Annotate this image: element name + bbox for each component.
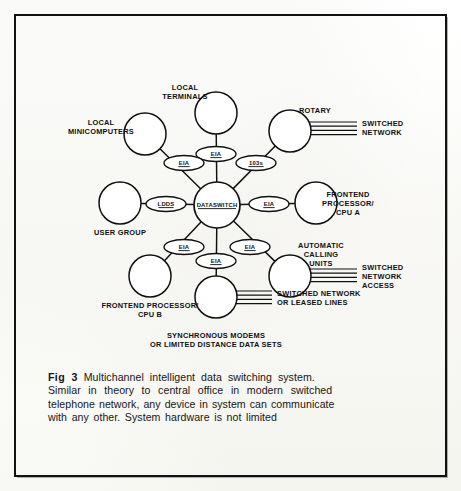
label-synchronous-modems: SYNCHRONOUS MODEMSOR LIMITED DISTANCE DA… [150,331,282,349]
label-local-terminals: LOCALTERMINALS [162,83,207,101]
trunk-switched-network-label: SWITCHEDNETWORK [362,119,404,137]
hub-dataswitch: DATASWITCH [194,182,240,228]
trunk-switched-network [308,122,357,135]
caption-line-2: Similar in theory to central office in m… [48,384,400,397]
hub-dataswitch-label: DATASWITCH [197,202,238,208]
node-rotary [269,110,311,152]
pill-frontend-cpu-a: EIA [249,197,289,212]
label-frontend-processor-cpu-b: FRONTEND PROCESSOR/CPU B [101,301,198,319]
label-local-minicomputers: LOCALMINICOMPUTERS [68,118,134,136]
pill-frontend-cpu-b: EIA [164,240,204,255]
figure-number: Fig 3 [48,371,78,383]
trunk-switched-network-or-leased-lines-label: SWITCHED NETWORKOR LEASED LINES [277,289,361,307]
network-diagram: EIAEIA103sLDDSEIAEIAEIAEIA DATASWITCH SW… [0,0,461,360]
pill-automatic-calling-units-label: EIA [245,244,256,250]
pill-automatic-calling-units: EIA [230,240,270,255]
node-user-group [99,182,141,224]
label-rotary: ROTARY [299,106,331,115]
trunk-switched-network-access [308,269,357,282]
figure-page: EIAEIA103sLDDSEIAEIAEIAEIA DATASWITCH SW… [0,0,461,491]
pill-user-group-label: LDDS [158,201,175,207]
pill-frontend-cpu-b-label: EIA [179,244,190,250]
pill-synchronous-modems-label: EIA [211,258,222,264]
node-synchronous-modems [195,276,237,318]
pill-local-minicomputers: EIA [164,156,204,171]
hub-node-layer: DATASWITCH [194,182,240,228]
pill-frontend-cpu-a-label: EIA [264,201,275,207]
label-user-group: USER GROUP [94,228,146,237]
trunk-switched-network-or-leased-lines [234,291,272,304]
pill-rotary-label: 103s [249,160,263,166]
pill-user-group: LDDS [146,197,186,212]
node-frontend-processor-cpu-b [129,255,171,297]
pill-rotary: 103s [236,156,276,171]
pill-synchronous-modems: EIA [196,254,236,269]
pill-local-minicomputers-label: EIA [179,160,190,166]
caption-line-1: Fig 3 Multichannel intelligent data swit… [48,371,400,384]
caption-line-4: with any other. System hardware is not l… [48,411,400,424]
caption-text-1: Multichannel intelligent data switching … [84,371,315,383]
trunk-switched-network-access-label: SWITCHEDNETWORKACCESS [362,263,404,290]
network-diagram-svg: EIAEIA103sLDDSEIAEIAEIAEIA DATASWITCH SW… [0,0,461,360]
pill-local-terminals-label: EIA [211,151,222,157]
caption-line-3: telephone network, any device in system … [48,398,400,411]
figure-caption: Fig 3 Multichannel intelligent data swit… [48,371,400,425]
